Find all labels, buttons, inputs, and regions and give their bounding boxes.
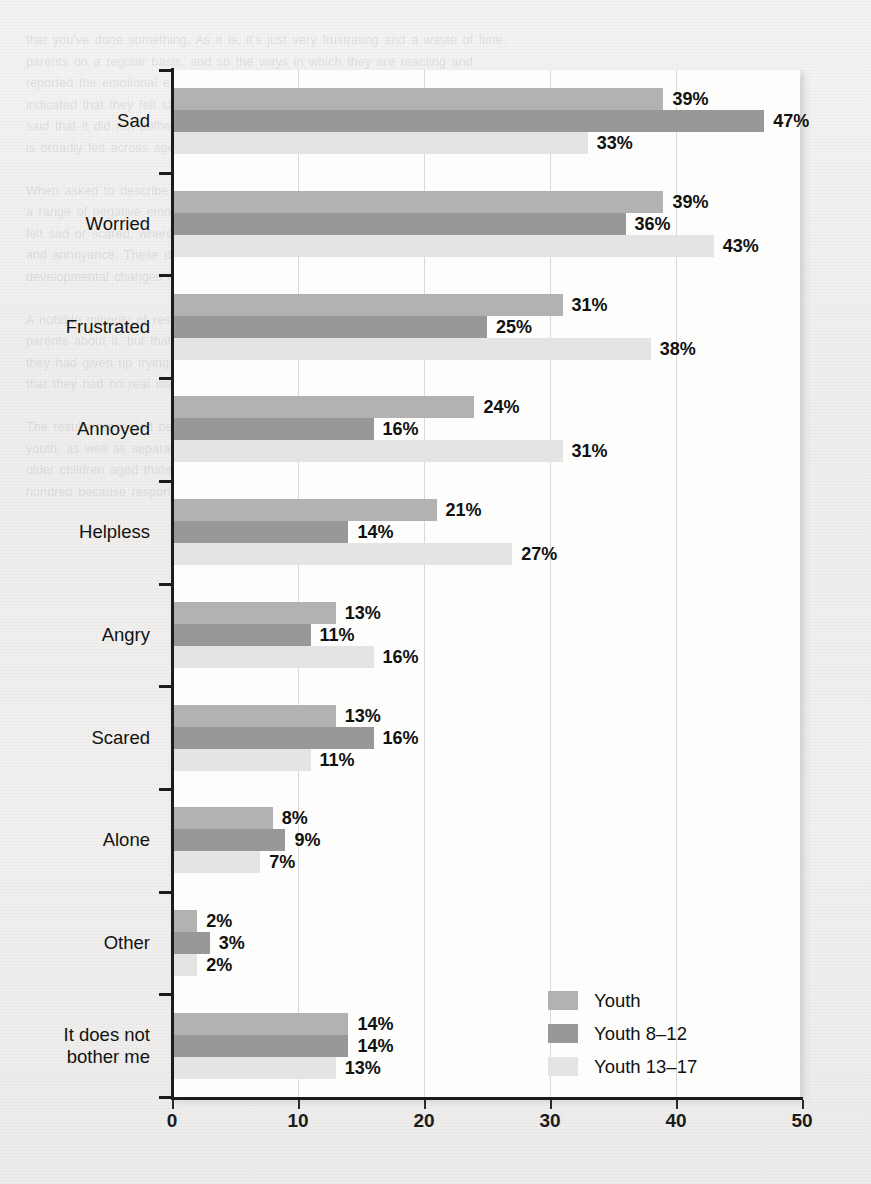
x-tick-label-20: 20	[413, 1110, 434, 1132]
x-tick-label-30: 30	[539, 1110, 560, 1132]
x-tick-label-40: 40	[665, 1110, 686, 1132]
bar-value-label: 31%	[572, 294, 608, 315]
bar-value-label: 16%	[383, 727, 419, 748]
x-tick-50	[802, 1100, 804, 1109]
bar	[172, 602, 336, 624]
bar-value-label: 11%	[320, 624, 355, 645]
bar-value-label: 25%	[496, 316, 532, 337]
bar	[172, 316, 487, 338]
bar-value-label: 2%	[206, 954, 232, 975]
category-label-angry: Angry	[12, 624, 172, 646]
bar-value-label: 14%	[357, 1035, 393, 1056]
bar-value-label: 21%	[446, 500, 482, 521]
bar	[172, 932, 210, 954]
bar	[172, 338, 651, 360]
bar-value-label: 27%	[521, 544, 557, 565]
gridline-50	[802, 70, 803, 1097]
legend-label: Youth 13–17	[594, 1056, 697, 1078]
bar-value-label: 13%	[345, 705, 381, 726]
bar-chart-figure: 01020304050 SadWorriedFrustratedAnnoyedH…	[0, 0, 871, 1184]
bar	[172, 294, 563, 316]
category-label-other: Other	[12, 932, 172, 954]
bar	[172, 213, 626, 235]
x-tick-10	[298, 1100, 300, 1109]
bar-value-label: 14%	[357, 522, 393, 543]
bar-value-label: 31%	[572, 441, 608, 462]
bar	[172, 829, 285, 851]
legend-item: Youth 8–12	[548, 1017, 697, 1050]
category-label-scared: Scared	[12, 727, 172, 749]
x-tick-label-10: 10	[287, 1110, 308, 1132]
bar-value-label: 8%	[282, 808, 308, 829]
bar	[172, 807, 273, 829]
bar	[172, 851, 260, 873]
chart-legend: YouthYouth 8–12Youth 13–17	[548, 984, 697, 1083]
bar-value-label: 13%	[345, 602, 381, 623]
bar	[172, 88, 663, 110]
bar-value-label: 11%	[320, 749, 355, 770]
bar-value-label: 43%	[723, 236, 759, 257]
category-label-alone: Alone	[12, 829, 172, 851]
bar	[172, 543, 512, 565]
bar-value-label: 16%	[383, 419, 419, 440]
bar-value-label: 16%	[383, 646, 419, 667]
bar	[172, 440, 563, 462]
category-label-sad: Sad	[12, 110, 172, 132]
bar	[172, 235, 714, 257]
bar-value-label: 2%	[206, 910, 232, 931]
legend-swatch-icon	[548, 991, 578, 1010]
x-tick-0	[172, 1100, 174, 1109]
bar	[172, 521, 348, 543]
bar	[172, 132, 588, 154]
bar	[172, 646, 374, 668]
bar	[172, 1013, 348, 1035]
bar-value-label: 33%	[597, 133, 633, 154]
legend-item: Youth	[548, 984, 697, 1017]
bar-value-label: 24%	[483, 397, 519, 418]
category-labels: SadWorriedFrustratedAnnoyedHelplessAngry…	[0, 0, 172, 1184]
bar	[172, 954, 197, 976]
category-label-helpless: Helpless	[12, 521, 172, 543]
gridline-40	[676, 70, 677, 1097]
bar	[172, 705, 336, 727]
bar	[172, 499, 437, 521]
category-label-it-does-not-bother-me: It does not bother me	[12, 1024, 172, 1068]
plot-area	[172, 70, 800, 1097]
bar-value-label: 39%	[672, 192, 708, 213]
bar-value-label: 9%	[294, 830, 320, 851]
bar-value-label: 38%	[660, 338, 696, 359]
legend-swatch-icon	[548, 1024, 578, 1043]
bar	[172, 624, 311, 646]
bar	[172, 910, 197, 932]
bar-value-label: 13%	[345, 1057, 381, 1078]
bar	[172, 727, 374, 749]
bar	[172, 418, 374, 440]
category-label-worried: Worried	[12, 213, 172, 235]
bar	[172, 191, 663, 213]
bar	[172, 1035, 348, 1057]
legend-swatch-icon	[548, 1057, 578, 1076]
bar	[172, 396, 474, 418]
category-label-frustrated: Frustrated	[12, 316, 172, 338]
category-label-annoyed: Annoyed	[12, 418, 172, 440]
x-tick-label-50: 50	[791, 1110, 812, 1132]
bar-value-label: 47%	[773, 111, 809, 132]
x-tick-30	[550, 1100, 552, 1109]
bar	[172, 110, 764, 132]
legend-item: Youth 13–17	[548, 1050, 697, 1083]
legend-label: Youth	[594, 990, 641, 1012]
x-axis-line	[171, 1097, 803, 1100]
legend-label: Youth 8–12	[594, 1023, 687, 1045]
bar	[172, 749, 311, 771]
bar-value-label: 36%	[635, 214, 671, 235]
bar-value-label: 14%	[357, 1013, 393, 1034]
bar-value-label: 7%	[269, 852, 295, 873]
x-tick-20	[424, 1100, 426, 1109]
x-tick-40	[676, 1100, 678, 1109]
bar-value-label: 3%	[219, 932, 245, 953]
bar-value-label: 39%	[672, 89, 708, 110]
bar	[172, 1057, 336, 1079]
